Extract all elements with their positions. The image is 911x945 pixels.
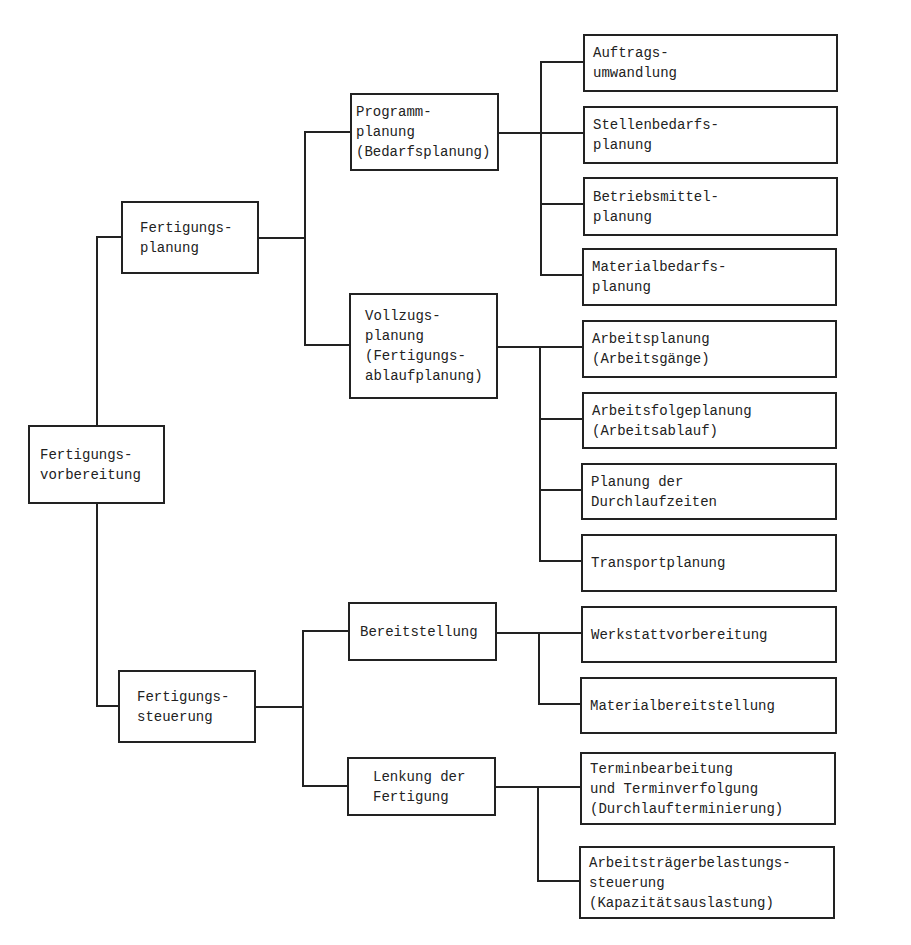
node-label: Auftrags- umwandlung (593, 43, 677, 83)
node-auftragsumwandlung: Auftrags- umwandlung (583, 34, 838, 92)
node-label: Planung der Durchlaufzeiten (591, 472, 717, 512)
connector-line (538, 703, 582, 705)
node-label: Arbeitsfolgeplanung (Arbeitsablauf) (592, 401, 752, 441)
node-label: Materialbedarfs- planung (592, 257, 726, 297)
node-stellenbedarfsplanung: Stellenbedarfs- planung (583, 106, 838, 164)
node-arbeitsfolgeplanung: Arbeitsfolgeplanung (Arbeitsablauf) (582, 392, 837, 449)
node-label: Betriebsmittel- planung (593, 187, 719, 227)
node-label: Fertigungs- planung (140, 218, 232, 258)
node-label: Werkstattvorbereitung (591, 625, 767, 645)
connector-line (539, 560, 583, 562)
connector-line (540, 61, 584, 63)
node-label: Bereitstellung (360, 622, 478, 642)
node-label: Stellenbedarfs- planung (593, 115, 719, 155)
node-arbeitsplanung: Arbeitsplanung (Arbeitsgänge) (582, 320, 837, 378)
connector-line (537, 880, 581, 882)
node-label: Programm- planung (Bedarfsplanung) (356, 102, 490, 162)
connector-line (304, 344, 350, 346)
node-vollzugsplanung: Vollzugs- planung (Fertigungs- ablaufpla… (349, 293, 498, 399)
node-label: Arbeitsplanung (Arbeitsgänge) (592, 329, 710, 369)
connector-line (254, 706, 303, 708)
org-tree-diagram: Fertigungs- vorbereitung Fertigungs- pla… (0, 0, 911, 945)
node-transportplanung: Transportplanung (581, 534, 837, 592)
connector-line (540, 61, 542, 276)
node-label: Terminbearbeitung und Terminverfolgung (… (590, 759, 783, 819)
connector-line (302, 785, 348, 787)
node-fertigungsplanung: Fertigungs- planung (121, 201, 259, 274)
node-fertigungssteuerung: Fertigungs- steuerung (118, 670, 256, 743)
connector-line (540, 274, 584, 276)
node-terminbearbeitung: Terminbearbeitung und Terminverfolgung (… (580, 752, 836, 825)
connector-line (538, 632, 540, 705)
node-label: Materialbereitstellung (590, 696, 775, 716)
node-materialbedarfsplanung: Materialbedarfs- planung (582, 248, 837, 306)
connector-line (302, 630, 304, 787)
node-materialbereitstellung: Materialbereitstellung (580, 677, 837, 734)
connector-line (96, 705, 119, 707)
node-planung-der-durchlaufzeiten: Planung der Durchlaufzeiten (581, 463, 837, 520)
node-programmplanung: Programm- planung (Bedarfsplanung) (350, 93, 499, 171)
node-label: Fertigungs- vorbereitung (40, 445, 141, 485)
connector-line (540, 203, 584, 205)
node-werkstattvorbereitung: Werkstattvorbereitung (581, 606, 837, 663)
connector-line (537, 786, 539, 882)
connector-line (302, 630, 349, 632)
node-label: Transportplanung (591, 553, 725, 573)
node-bereitstellung: Bereitstellung (348, 602, 497, 661)
node-label: Fertigungs- steuerung (137, 687, 229, 727)
node-fertigungsvorbereitung: Fertigungs- vorbereitung (28, 425, 165, 504)
node-lenkung-der-fertigung: Lenkung der Fertigung (347, 757, 496, 816)
connector-line (257, 237, 305, 239)
node-label: Vollzugs- planung (Fertigungs- ablaufpla… (365, 306, 483, 386)
node-arbeitstraegerbelastungssteuerung: Arbeitsträgerbelastungs- steuerung (Kapa… (579, 846, 835, 919)
connector-line (96, 236, 122, 238)
connector-line (539, 489, 583, 491)
connector-line (304, 131, 306, 346)
node-betriebsmittelplanung: Betriebsmittel- planung (583, 177, 838, 236)
node-label: Arbeitsträgerbelastungs- steuerung (Kapa… (589, 853, 791, 913)
node-label: Lenkung der Fertigung (373, 767, 465, 807)
connector-line (304, 131, 351, 133)
connector-line (539, 418, 583, 420)
connector-line (539, 346, 541, 562)
